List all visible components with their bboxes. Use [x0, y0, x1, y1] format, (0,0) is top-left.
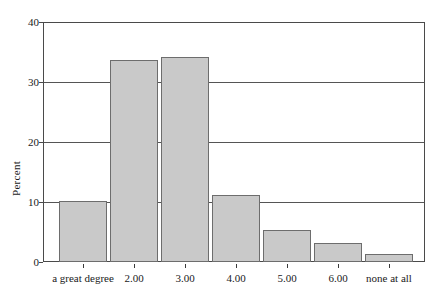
- x-tick-mark-3: [185, 264, 186, 268]
- x-tick-mark-1: [83, 264, 84, 268]
- x-tick-label-4-00: 4.00: [226, 272, 245, 285]
- x-tick-label-2-00: 2.00: [124, 272, 143, 285]
- x-tick-label-3-00: 3.00: [175, 272, 194, 285]
- bar-5-00: [263, 230, 311, 262]
- bar-chart: 40 30 20 10 0 Percent a great: [0, 0, 442, 304]
- x-tick-mark-2: [134, 264, 135, 268]
- x-tick-mark-4: [236, 264, 237, 268]
- bar-3-00: [161, 57, 209, 262]
- bar-2-00: [110, 60, 158, 262]
- x-tick-mark-7: [389, 264, 390, 268]
- bar-a-great-degree: [59, 201, 107, 262]
- y-tick-label-10: 10: [9, 197, 39, 208]
- y-tick-label-30: 30: [9, 77, 39, 88]
- bar-4-00: [212, 195, 260, 262]
- y-axis: 40 30 20 10 0: [5, 22, 39, 262]
- x-tick-label-6-00: 6.00: [328, 272, 347, 285]
- bar-none-at-all: [365, 254, 413, 262]
- y-tick-label-0: 0: [9, 257, 39, 268]
- x-tick-label-a-great-degree: a great degree: [52, 272, 114, 285]
- y-tick-label-40: 40: [9, 17, 39, 28]
- bars-layer: [43, 22, 425, 262]
- x-axis: a great degree 2.00 3.00 4.00 5.00 6.00 …: [43, 262, 425, 304]
- x-tick-mark-5: [287, 264, 288, 268]
- y-tick-label-20: 20: [9, 137, 39, 148]
- bar-6-00: [314, 243, 362, 262]
- x-tick-label-none-at-all: none at all: [366, 272, 412, 285]
- x-tick-mark-6: [338, 264, 339, 268]
- y-axis-title: Percent: [11, 161, 22, 196]
- x-tick-label-5-00: 5.00: [277, 272, 296, 285]
